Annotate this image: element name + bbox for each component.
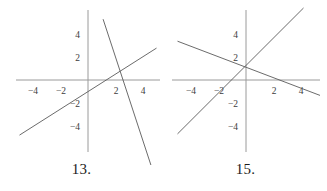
y-tick-label-2: 2 [233,53,238,63]
axes-group-13 [16,10,160,152]
plot-area-15: −4 −2 2 4 4 2 −2 −4 [164,0,327,165]
y-tick-label-4: 4 [233,30,238,40]
x-tick-label-neg2: −2 [214,86,224,96]
shallow-falling-line [178,41,321,95]
plotted-lines-15 [178,8,321,134]
x-tick-label-neg4: −4 [28,86,38,96]
figure-caption-15: 15. [164,160,327,178]
figure-caption-13: 13. [0,160,163,178]
x-tick-label-neg4: −4 [186,86,196,96]
figure-13: −4 −2 2 4 4 2 −2 −4 13. [0,0,163,191]
y-tick-label-4: 4 [75,30,80,40]
y-tick-label-neg4: −4 [228,122,238,132]
tick-labels-13: −4 −2 2 4 4 2 −2 −4 [28,30,146,132]
coordinate-plane-13: −4 −2 2 4 4 2 −2 −4 [0,0,163,165]
figure-15: −4 −2 2 4 4 2 −2 −4 15. [164,0,327,191]
y-tick-label-2: 2 [75,53,80,63]
axes-group-15 [172,10,320,152]
x-tick-label-2: 2 [114,86,119,96]
steep-rising-line [178,8,304,134]
y-tick-label-neg2: −2 [70,99,80,109]
coordinate-plane-15: −4 −2 2 4 4 2 −2 −4 [164,0,327,165]
x-tick-label-4: 4 [141,86,146,96]
tick-labels-15: −4 −2 2 4 4 2 −2 −4 [186,30,304,132]
y-tick-label-neg2: −2 [228,99,238,109]
plot-area-13: −4 −2 2 4 4 2 −2 −4 [0,0,163,165]
x-tick-label-2: 2 [272,86,277,96]
figure-page: −4 −2 2 4 4 2 −2 −4 13. [0,0,327,191]
y-tick-label-neg4: −4 [70,122,80,132]
x-tick-label-neg2: −2 [56,86,66,96]
